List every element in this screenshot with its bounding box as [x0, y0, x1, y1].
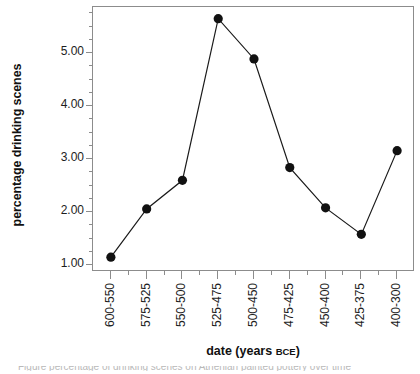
y-axis-minor-tick — [89, 185, 93, 186]
y-axis-minor-tick — [89, 145, 93, 146]
x-axis-tick-label: 425-375 — [353, 283, 367, 327]
y-axis-minor-tick — [89, 224, 93, 225]
x-axis-title-main: date (years — [206, 344, 275, 358]
y-axis-title: percentage drinking scenes — [0, 0, 34, 290]
x-axis-minor-tick — [271, 271, 272, 275]
x-axis-major-tick — [396, 271, 397, 279]
x-axis-tick-label: 450-400 — [318, 283, 332, 327]
data-point-marker — [357, 230, 366, 239]
x-axis-minor-tick — [342, 271, 343, 275]
x-axis-tick-label: 600-550 — [103, 283, 117, 327]
x-axis-major-tick — [110, 271, 111, 279]
y-axis-minor-tick — [89, 251, 93, 252]
y-axis-major-tick — [86, 211, 93, 212]
x-axis-tick-label: 400-300 — [389, 283, 403, 327]
y-axis-minor-tick — [89, 238, 93, 239]
y-axis-tick-label: 5.00 — [61, 44, 84, 58]
y-axis-title-text: percentage drinking scenes — [10, 64, 24, 227]
y-axis-minor-tick — [89, 92, 93, 93]
y-axis-minor-tick — [89, 79, 93, 80]
x-axis-ticks — [92, 271, 414, 283]
data-point-marker — [393, 146, 402, 155]
x-axis-major-tick — [217, 271, 218, 279]
y-axis-tick-labels: 1.002.003.004.005.00 — [34, 0, 88, 290]
x-axis-tick-label: 500-450 — [246, 283, 260, 327]
chart-figure: percentage drinking scenes 1.002.003.004… — [0, 0, 420, 374]
x-axis-tick-label: 525-475 — [210, 283, 224, 327]
x-axis-title-smallcaps: BCE — [276, 346, 296, 357]
y-axis-tick-label: 4.00 — [61, 97, 84, 111]
x-axis-title: date (years BCE) — [92, 344, 414, 358]
x-axis-minor-tick — [128, 271, 129, 275]
x-axis-major-tick — [146, 271, 147, 279]
data-point-marker — [142, 204, 151, 213]
data-point-marker — [285, 163, 294, 172]
y-axis-tick-label: 2.00 — [61, 203, 84, 217]
data-point-marker — [178, 176, 187, 185]
y-axis-minor-tick — [89, 12, 93, 13]
x-axis-minor-tick — [307, 271, 308, 275]
y-axis-minor-tick — [89, 26, 93, 27]
cut-off-caption-text: Figure percentage of drinking scenes on … — [18, 366, 402, 371]
x-axis-minor-tick — [235, 271, 236, 275]
data-point-marker — [106, 253, 115, 262]
y-axis-minor-tick — [89, 118, 93, 119]
x-axis-title-tail: ) — [296, 344, 300, 358]
x-axis-tick-label: 475-425 — [282, 283, 296, 327]
x-axis-major-tick — [181, 271, 182, 279]
x-axis-minor-tick — [378, 271, 379, 275]
y-axis-minor-tick — [89, 39, 93, 40]
data-point-marker — [214, 14, 223, 23]
x-axis-minor-tick — [199, 271, 200, 275]
x-axis-minor-tick — [164, 271, 165, 275]
plot-area — [92, 6, 414, 271]
y-axis-tick-label: 1.00 — [61, 256, 84, 270]
x-axis-major-tick — [253, 271, 254, 279]
x-axis-major-tick — [360, 271, 361, 279]
x-axis-tick-label: 575-525 — [139, 283, 153, 327]
y-axis-major-tick — [86, 105, 93, 106]
y-axis-minor-tick — [89, 171, 93, 172]
y-axis-tick-label: 3.00 — [61, 150, 84, 164]
y-axis-minor-tick — [89, 198, 93, 199]
y-axis-major-tick — [86, 158, 93, 159]
y-axis-minor-tick — [89, 65, 93, 66]
x-axis-major-tick — [325, 271, 326, 279]
cut-off-caption: Figure percentage of drinking scenes on … — [18, 366, 402, 371]
x-axis-tick-label: 550-500 — [174, 283, 188, 327]
y-axis-major-tick — [86, 52, 93, 53]
data-point-marker — [249, 54, 258, 63]
y-axis-minor-tick — [89, 132, 93, 133]
y-axis-major-tick — [86, 264, 93, 265]
data-point-marker — [321, 203, 330, 212]
data-series-line — [93, 7, 415, 272]
x-axis-tick-labels: 600-550575-525550-500525-475500-450475-4… — [92, 283, 414, 345]
x-axis-major-tick — [289, 271, 290, 279]
